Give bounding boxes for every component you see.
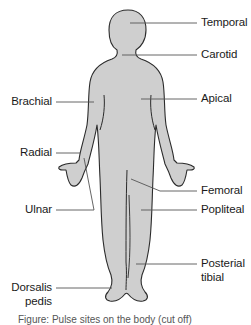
figure-caption: Figure: Pulse sites on the body (cut off… [18, 314, 192, 325]
label-posterial: Posterial [201, 257, 245, 270]
label-brachial: Brachial [11, 95, 52, 108]
label-popliteal: Popliteal [201, 203, 244, 216]
label-pedis: pedis [25, 295, 52, 308]
label-ulnar: Ulnar [25, 203, 52, 216]
label-apical: Apical [201, 92, 232, 105]
label-radial: Radial [20, 146, 52, 159]
label-tibial: tibial [201, 271, 224, 284]
label-femoral: Femoral [201, 184, 242, 197]
label-dorsalis: Dorsalis [11, 281, 52, 294]
label-temporal: Temporal [201, 16, 248, 29]
label-carotid: Carotid [201, 48, 237, 61]
